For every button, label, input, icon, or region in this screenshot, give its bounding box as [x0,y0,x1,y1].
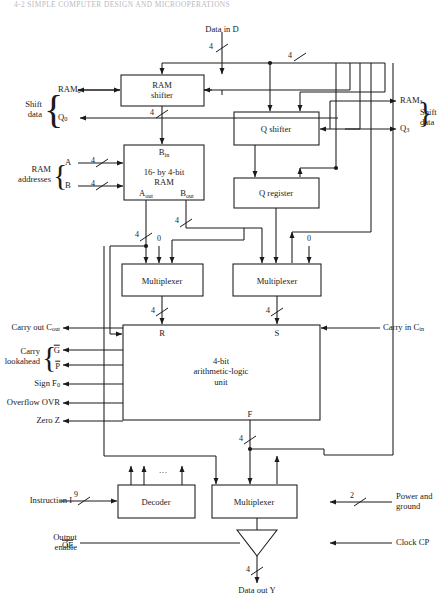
port-b-in: Bin [159,148,170,159]
bus-width-addr-b: 4 [91,179,95,188]
block-ram-line2: RAM [154,177,174,187]
shift-data-left-brace: { [44,90,63,130]
bus-width-b-out: 4 [175,216,179,225]
port-a-out: Aout [139,189,153,200]
label-ram-addresses: RAM addresses [18,165,51,184]
bus-width-alu-f-out: 4 [239,434,243,443]
block-multiplexer-right: Multiplexer [257,276,298,286]
label-shift-data-left: Shift data [25,100,42,119]
bus-width-a-out: 4 [135,230,139,239]
port-alu-s: S [275,329,280,339]
port-b-out: Bout [180,189,194,200]
label-carry-lookahead: Carry lookahead [5,347,40,366]
label-clock: Clock CP [396,538,429,548]
port-data-in: Data in D [205,25,238,35]
label-shift-data-right: Shift data [420,108,437,127]
label-overflow: Overflow OVR [7,398,60,408]
label-output-enable-signal: OE [62,540,73,551]
bus-width-power: 2 [350,491,354,500]
port-alu-r: R [159,329,165,339]
diagram-canvas: 4-2 SIMPLE COMPUTER DESIGN AND MICROOPER… [0,0,438,611]
decoder-ellipsis: ··· [159,468,168,478]
label-instruction: Instruction I [30,496,72,506]
bus-width-instruction: 9 [74,490,78,499]
label-carry-in: Carry in Cin [383,323,424,334]
port-addr-a: A [65,158,71,168]
block-ram-shifter-line1: RAM [152,80,172,90]
block-ram: 16- by 4-bit RAM [144,167,185,188]
label-zero: Zero Z [36,416,60,426]
block-ram-shifter: RAM shifter [151,80,173,101]
bus-width-mux-right-out: 4 [266,306,270,315]
block-q-shifter: Q shifter [261,124,291,134]
bus-width-addr-a: 4 [91,156,95,165]
block-alu: 4-bit arithmetic-logic unit [194,356,249,387]
port-data-out: Data out Y [238,586,275,596]
block-alu-line1: 4-bit [213,356,229,366]
bus-width-data-in: 4 [209,42,213,51]
label-sign: Sign F0 [34,379,60,390]
block-decoder: Decoder [141,497,170,507]
bus-width-mux-left-out: 4 [151,306,155,315]
block-alu-line3: unit [214,377,227,387]
block-q-register: Q register [259,188,293,198]
block-multiplexer-bottom: Multiplexer [234,497,275,507]
port-q3: Q3 [400,124,409,135]
bus-width-top-right: 4 [288,51,292,60]
label-lookahead-p: P [55,361,60,372]
label-power-ground: Power and ground [396,492,433,511]
label-carry-out: Carry out Cout [12,323,61,334]
block-alu-line2: arithmetic-logic [194,367,249,377]
bus-width-data-out: 4 [246,565,250,574]
constant-zero-left: 0 [157,234,161,243]
block-ram-line1: 16- by 4-bit [144,167,185,177]
port-addr-b: B [65,181,71,191]
label-lookahead-g: G [54,345,60,356]
bus-width-ram-shifter-out: 4 [150,108,154,117]
block-ram-shifter-line2: shifter [151,90,173,100]
port-alu-f: F [248,410,253,420]
block-multiplexer-left: Multiplexer [142,276,183,286]
constant-zero-right: 0 [307,234,311,243]
